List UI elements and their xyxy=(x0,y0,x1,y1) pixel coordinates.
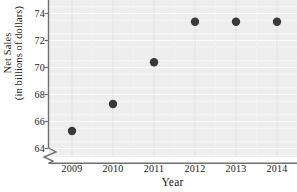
y-tick-label: 64 xyxy=(25,144,45,154)
data-point xyxy=(273,18,281,26)
data-point xyxy=(68,127,76,135)
y-axis-title-line1: Net Sales xyxy=(2,33,14,74)
x-tick-label: 2010 xyxy=(93,164,133,174)
y-tick-label: 72 xyxy=(25,36,45,46)
plot-canvas xyxy=(49,0,297,157)
y-tick-label: 68 xyxy=(25,90,45,100)
x-tick-label: 2009 xyxy=(52,164,92,174)
gridlines-vertical-minor xyxy=(93,0,257,157)
y-tick-label: 70 xyxy=(25,63,45,73)
data-point xyxy=(109,100,117,108)
gridlines-minor xyxy=(49,7,297,156)
y-tick-marks xyxy=(45,14,49,149)
y-tick-label: 66 xyxy=(25,117,45,127)
scatter-plot-figure: Net Sales (in billions of dollars) 74 72… xyxy=(0,0,297,192)
x-tick-label: 2012 xyxy=(175,164,215,174)
data-point xyxy=(150,58,158,66)
data-point xyxy=(191,18,199,26)
x-tick-label: 2013 xyxy=(216,164,256,174)
data-point xyxy=(232,18,240,26)
x-tick-label: 2011 xyxy=(134,164,174,174)
x-tick-label: 2014 xyxy=(257,164,297,174)
plot-area xyxy=(49,0,297,157)
x-axis-title: Year xyxy=(48,176,297,189)
y-tick-label: 74 xyxy=(25,9,45,19)
